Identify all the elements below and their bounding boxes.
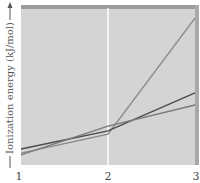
x-tick-label-2: 2: [105, 170, 112, 183]
arrow-up-icon: [8, 2, 13, 8]
x-tick-label-1: 1: [16, 170, 23, 183]
y-axis-label-group: Ionization energy (kJ/mol): [4, 2, 15, 168]
plot-top-border: [21, 5, 199, 9]
x-tick-label-3: 3: [193, 170, 200, 183]
y-axis-label: Ionization energy (kJ/mol): [4, 22, 15, 154]
plot-right-border: [195, 5, 199, 165]
ionization-energy-chart: 123 Ionization energy (kJ/mol): [0, 0, 199, 183]
